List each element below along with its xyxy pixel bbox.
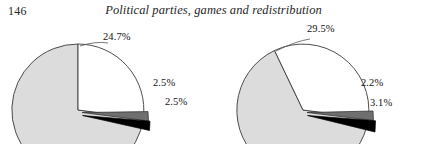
pie-left-label-d: 2.5% bbox=[165, 96, 187, 107]
pie-right-label-b: 29.5% bbox=[307, 23, 335, 34]
pie-right-svg bbox=[214, 22, 427, 144]
pie-left-label-c: 2.5% bbox=[153, 77, 175, 88]
running-head-title: Political parties, games and redistribut… bbox=[0, 3, 427, 18]
pie-chart-left: 24.7% 2.5% 2.5% bbox=[0, 22, 213, 144]
running-head: 146 Political parties, games and redistr… bbox=[0, 0, 427, 24]
pie-left-label-b: 24.7% bbox=[103, 31, 131, 42]
pie-right-label-d: 3.1% bbox=[370, 97, 392, 108]
page-canvas: 146 Political parties, games and redistr… bbox=[0, 0, 427, 144]
figure-area: 24.7% 2.5% 2.5% 29.5% 2.2% 3.1% bbox=[0, 22, 427, 144]
pie-right-label-c: 2.2% bbox=[361, 77, 383, 88]
pie-chart-right: 29.5% 2.2% 3.1% bbox=[214, 22, 427, 144]
pie-left-slice-b bbox=[78, 44, 144, 119]
